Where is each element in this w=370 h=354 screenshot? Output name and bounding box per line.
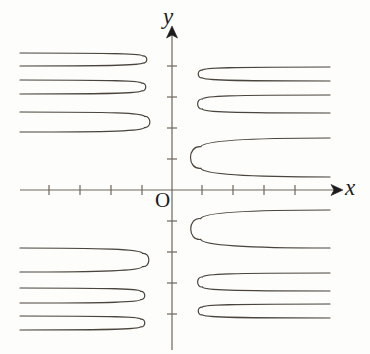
- curve-branch: [198, 95, 330, 113]
- curve-branch: [191, 210, 330, 248]
- x-axis-label: x: [345, 176, 355, 199]
- graph-figure: y x O: [0, 0, 370, 354]
- curve-branch: [198, 273, 330, 291]
- curve-branch: [20, 288, 145, 303]
- curve-branch: [20, 112, 150, 132]
- curve-branch: [190, 138, 330, 177]
- origin-label: O: [155, 190, 170, 211]
- curve-family: [20, 53, 330, 330]
- curve-branch: [20, 53, 147, 66]
- y-axis-label: y: [163, 5, 173, 28]
- curve-branch: [20, 248, 149, 272]
- curve-branch: [20, 316, 145, 330]
- coordinate-plane: [0, 0, 370, 354]
- curve-branch: [198, 304, 330, 318]
- curve-branch: [20, 80, 146, 94]
- curve-branch: [198, 67, 330, 81]
